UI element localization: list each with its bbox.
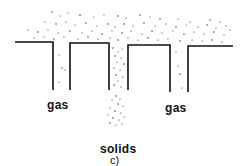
plate-right-segment [188, 46, 233, 92]
gas-label-right: gas [165, 102, 187, 114]
gas-label-left: gas [47, 99, 69, 111]
panel-label: c) [110, 155, 119, 166]
plate-block-middle-right [128, 45, 170, 92]
plate-block-middle-left [70, 43, 109, 90]
plate-left-segment [15, 42, 53, 90]
distributor-plate [15, 42, 233, 92]
